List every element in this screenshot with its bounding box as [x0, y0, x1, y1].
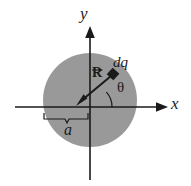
vector-R-label: R: [92, 66, 102, 80]
y-axis-arrowhead: [85, 26, 95, 38]
physics-diagram-charged-disk: y x a dq θ R: [0, 0, 191, 186]
y-axis-label: y: [80, 5, 88, 22]
x-axis-arrowhead: [156, 102, 168, 112]
charge-element-label: dq: [113, 55, 128, 70]
x-axis-label: x: [171, 95, 179, 112]
vector-arrow-overbar-icon: [92, 66, 103, 73]
radius-label: a: [64, 122, 72, 138]
diagram-canvas: [0, 0, 191, 186]
angle-theta-label: θ: [117, 80, 124, 95]
